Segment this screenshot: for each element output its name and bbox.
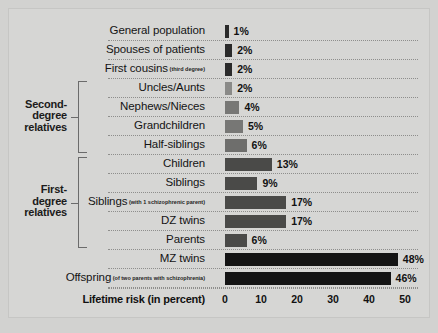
x-tick-label: 40 xyxy=(358,293,380,305)
group-label-first-degree: First-degreerelatives xyxy=(0,184,67,219)
category-sublabel: (with 1 schizophrenic parent) xyxy=(127,199,205,205)
bar-value-label: 9% xyxy=(262,177,277,189)
category-label: Parents xyxy=(166,233,205,245)
category-label: MZ twins xyxy=(160,252,205,264)
bar-row: General population1% xyxy=(0,22,438,41)
bar-row: First cousins (third degree)2% xyxy=(0,60,438,79)
bar-value-label: 17% xyxy=(291,196,312,208)
bar-value-label: 5% xyxy=(248,120,263,132)
category-label: Nephews/Nieces xyxy=(120,100,205,112)
category-label: First cousins (third degree) xyxy=(105,62,205,74)
category-sublabel: (third degree) xyxy=(168,66,205,72)
bar xyxy=(225,234,247,247)
bar xyxy=(225,272,391,285)
bar xyxy=(225,196,286,209)
bar-value-label: 17% xyxy=(291,215,312,227)
bar-row: Offspring (of two parents with schizophr… xyxy=(0,269,438,288)
bar xyxy=(225,158,272,171)
bar xyxy=(225,25,229,38)
bar-row: Uncles/Aunts2% xyxy=(0,79,438,98)
bar xyxy=(225,177,257,190)
bar-row: MZ twins48% xyxy=(0,250,438,269)
bar-row: Spouses of patients2% xyxy=(0,41,438,60)
category-label: Siblings (with 1 schizophrenic parent) xyxy=(88,195,205,207)
axis-baseline xyxy=(108,288,418,289)
category-label: Spouses of patients xyxy=(106,43,205,55)
bar-value-label: 2% xyxy=(237,63,252,75)
x-tick-label: 10 xyxy=(250,293,272,305)
x-tick-label: 50 xyxy=(394,293,416,305)
bar xyxy=(225,44,232,57)
bar-row: Half-siblings6% xyxy=(0,136,438,155)
bar-value-label: 6% xyxy=(252,139,267,151)
group-label-second-degree: Second-degreerelatives xyxy=(0,99,67,134)
bar xyxy=(225,63,232,76)
category-label: Siblings xyxy=(166,176,205,188)
category-label: General population xyxy=(110,24,205,36)
x-tick-label: 0 xyxy=(214,293,236,305)
group-bracket-stem xyxy=(71,203,78,204)
group-bracket-second-degree xyxy=(78,81,87,153)
bar-value-label: 48% xyxy=(403,253,424,265)
bar xyxy=(225,82,232,95)
bar xyxy=(225,139,247,152)
group-label-line: relatives xyxy=(0,122,67,134)
x-tick-label: 20 xyxy=(286,293,308,305)
bar-row: Children13% xyxy=(0,155,438,174)
bar-value-label: 46% xyxy=(396,272,417,284)
bar xyxy=(225,215,286,228)
group-label-line: relatives xyxy=(0,207,67,219)
bar-value-label: 2% xyxy=(237,44,252,56)
category-label: Half-siblings xyxy=(144,138,205,150)
category-label: Uncles/Aunts xyxy=(138,81,205,93)
bar-row: Parents6% xyxy=(0,231,438,250)
category-label: Offspring (of two parents with schizophr… xyxy=(66,271,205,283)
bar-value-label: 1% xyxy=(234,25,249,37)
x-tick-label: 30 xyxy=(322,293,344,305)
bar-value-label: 13% xyxy=(277,158,298,170)
category-label: Grandchildren xyxy=(134,119,205,131)
bar-value-label: 6% xyxy=(252,234,267,246)
category-label: Children xyxy=(163,157,205,169)
bar-value-label: 2% xyxy=(237,82,252,94)
category-sublabel: (of two parents with schizophrenia) xyxy=(111,275,205,281)
chart-figure: General population1%Spouses of patients2… xyxy=(0,0,438,333)
bar xyxy=(225,101,239,114)
bar xyxy=(225,253,398,266)
bar xyxy=(225,120,243,133)
x-axis-title: Lifetime risk (in percent) xyxy=(82,293,205,305)
category-label: DZ twins xyxy=(161,214,205,226)
group-bracket-stem xyxy=(71,117,78,118)
group-bracket-first-degree xyxy=(78,157,87,248)
bar-value-label: 4% xyxy=(244,101,259,113)
